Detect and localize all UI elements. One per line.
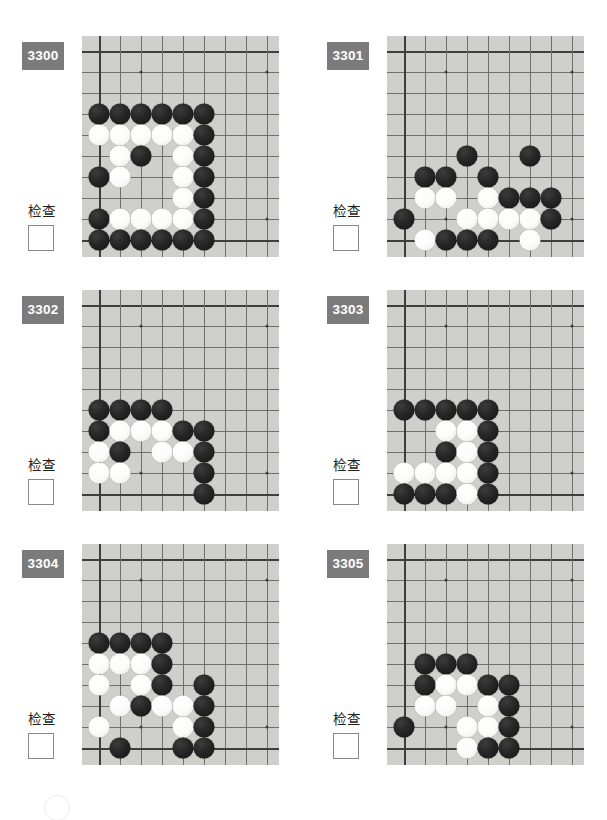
black-stone <box>194 209 215 230</box>
black-stone <box>194 421 215 442</box>
go-board-3301[interactable] <box>387 36 584 257</box>
white-stone <box>415 188 436 209</box>
white-stone <box>415 230 436 251</box>
white-stone <box>152 125 173 146</box>
star-point <box>140 325 143 328</box>
black-stone <box>89 209 110 230</box>
black-stone <box>520 146 541 167</box>
check-checkbox-3302[interactable] <box>28 479 54 505</box>
star-point <box>445 726 448 729</box>
black-stone <box>436 230 457 251</box>
black-stone <box>541 209 562 230</box>
black-stone <box>436 484 457 505</box>
check-label: 检查 <box>28 713 74 728</box>
go-board-3305[interactable] <box>387 544 584 765</box>
grid-line-horizontal <box>82 580 279 581</box>
check-group: 检查 <box>333 205 379 251</box>
black-stone <box>194 125 215 146</box>
black-stone <box>457 400 478 421</box>
black-stone <box>499 738 520 759</box>
check-checkbox-3300[interactable] <box>28 225 54 251</box>
white-stone <box>131 675 152 696</box>
star-point <box>140 472 143 475</box>
white-stone <box>436 463 457 484</box>
worksheet-page: 3300 检查 3301 检查 3302 检查 <box>0 0 607 820</box>
grid-line-horizontal <box>82 368 279 369</box>
black-stone <box>394 717 415 738</box>
white-stone <box>457 421 478 442</box>
white-stone <box>152 696 173 717</box>
white-stone <box>457 463 478 484</box>
grid-line-horizontal <box>82 51 279 53</box>
white-stone <box>110 209 131 230</box>
go-board-3300[interactable] <box>82 36 279 257</box>
white-stone <box>110 146 131 167</box>
white-stone <box>110 421 131 442</box>
black-stone <box>131 104 152 125</box>
black-stone <box>478 738 499 759</box>
white-stone <box>457 442 478 463</box>
problem-number-text: 3301 <box>332 49 363 63</box>
grid-line-horizontal <box>387 643 584 644</box>
white-stone <box>457 675 478 696</box>
black-stone <box>478 463 499 484</box>
white-stone <box>110 696 131 717</box>
white-stone <box>131 654 152 675</box>
grid-line-vertical <box>572 544 573 765</box>
grid-line-vertical <box>246 290 247 511</box>
black-stone <box>194 717 215 738</box>
white-stone <box>110 167 131 188</box>
black-stone <box>415 167 436 188</box>
check-group: 检查 <box>333 713 379 759</box>
grid-line-vertical <box>572 290 573 511</box>
grid-line-horizontal <box>387 156 584 157</box>
star-point <box>445 325 448 328</box>
grid-line-horizontal <box>82 685 279 686</box>
check-checkbox-3305[interactable] <box>333 733 359 759</box>
grid-line-vertical <box>267 290 268 511</box>
check-label: 检查 <box>28 205 74 220</box>
grid-line-horizontal <box>387 368 584 369</box>
go-problem-3302: 3302 检查 <box>0 254 281 496</box>
white-stone <box>131 209 152 230</box>
white-stone <box>89 654 110 675</box>
go-board-3304[interactable] <box>82 544 279 765</box>
check-label: 检查 <box>333 713 379 728</box>
grid-line-vertical <box>225 544 226 765</box>
grid-line-horizontal <box>82 305 279 307</box>
black-stone <box>131 633 152 654</box>
check-checkbox-3301[interactable] <box>333 225 359 251</box>
grid-line-horizontal <box>82 72 279 73</box>
check-group: 检查 <box>333 459 379 505</box>
problem-number-badge-3300: 3300 <box>22 42 64 70</box>
star-point <box>571 218 574 221</box>
black-stone <box>499 675 520 696</box>
white-stone <box>152 209 173 230</box>
check-checkbox-3303[interactable] <box>333 479 359 505</box>
check-checkbox-3304[interactable] <box>28 733 54 759</box>
white-stone <box>173 209 194 230</box>
go-problem-3305: 3305 检查 <box>305 508 586 750</box>
black-stone <box>478 230 499 251</box>
star-point <box>266 579 269 582</box>
white-stone <box>478 209 499 230</box>
go-problem-3303: 3303 检查 <box>305 254 586 496</box>
go-board-3302[interactable] <box>82 290 279 511</box>
white-stone <box>457 209 478 230</box>
go-board-3303[interactable] <box>387 290 584 511</box>
star-point <box>266 472 269 475</box>
star-point <box>571 71 574 74</box>
problem-number-text: 3302 <box>27 303 58 317</box>
white-stone <box>173 167 194 188</box>
white-stone <box>173 696 194 717</box>
black-stone <box>415 400 436 421</box>
white-stone <box>457 484 478 505</box>
grid-line-horizontal <box>82 93 279 94</box>
black-stone <box>173 230 194 251</box>
black-stone <box>173 421 194 442</box>
white-stone <box>478 188 499 209</box>
black-stone <box>110 738 131 759</box>
black-stone <box>110 230 131 251</box>
black-stone <box>152 675 173 696</box>
black-stone <box>541 188 562 209</box>
